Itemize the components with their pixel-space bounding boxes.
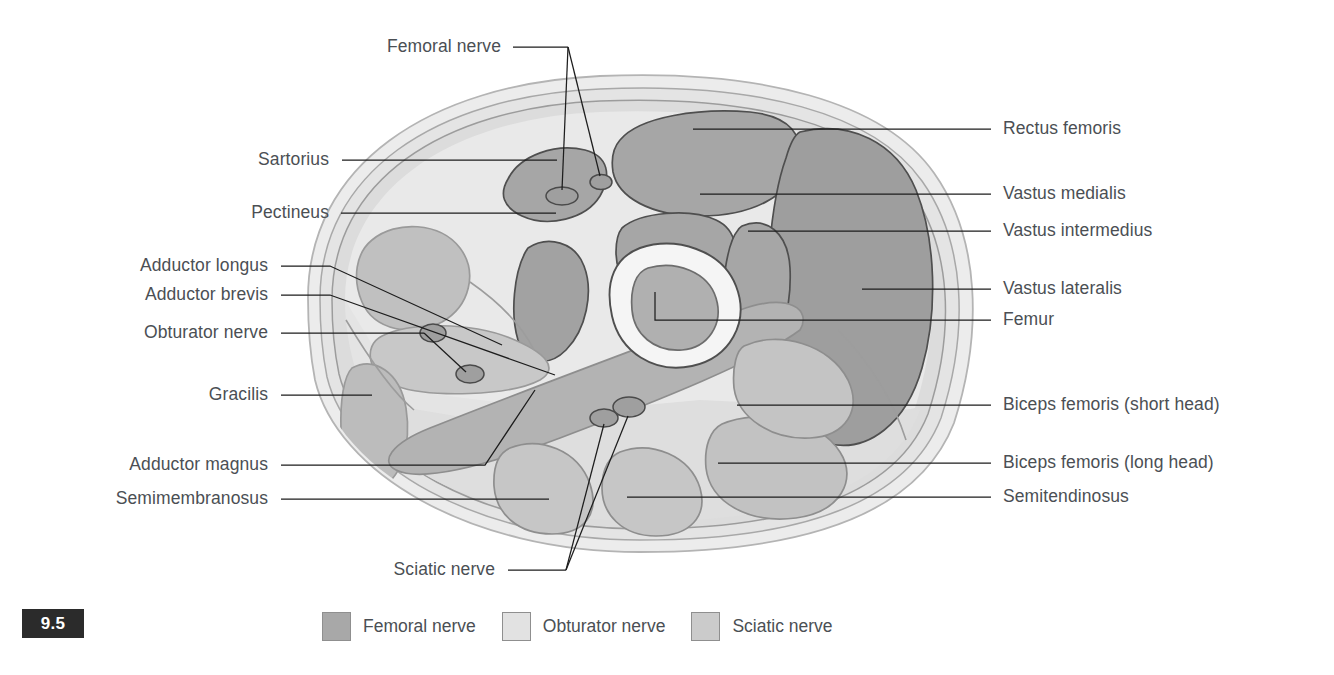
- label-adductor-brevis: Adductor brevis: [145, 284, 268, 304]
- legend-swatch-femoral-nerve: [322, 612, 351, 641]
- label-femur: Femur: [1003, 309, 1054, 329]
- label-biceps-femoris-short-head: Biceps femoris (short head): [1003, 394, 1220, 414]
- legend-swatch-sciatic-nerve: [691, 612, 720, 641]
- label-vastus-intermedius: Vastus intermedius: [1003, 220, 1152, 240]
- femur-bone: [610, 244, 741, 368]
- label-vastus-medialis: Vastus medialis: [1003, 183, 1126, 203]
- label-sartorius: Sartorius: [258, 149, 329, 169]
- label-gracilis: Gracilis: [209, 384, 268, 404]
- legend-item-femoral-nerve: Femoral nerve: [322, 612, 476, 641]
- legend-label-obturator-nerve: Obturator nerve: [543, 616, 666, 637]
- thigh-cross-section-diagram: Femoral nerve Sartorius Pectineus Adduct…: [0, 0, 1334, 675]
- label-semimembranosus: Semimembranosus: [116, 488, 268, 508]
- label-obturator-nerve: Obturator nerve: [144, 322, 268, 342]
- legend: Femoral nerve Obturator nerve Sciatic ne…: [322, 612, 859, 641]
- muscle-adductor-longus: [357, 227, 470, 331]
- legend-label-sciatic-nerve: Sciatic nerve: [732, 616, 832, 637]
- sciatic-nerve-dot-2: [613, 397, 645, 417]
- legend-swatch-obturator-nerve: [502, 612, 531, 641]
- figure-number-badge: 9.5: [22, 609, 84, 638]
- label-femoral-nerve: Femoral nerve: [387, 36, 501, 56]
- femoral-nerve-dot-2: [590, 175, 612, 190]
- obturator-nerve-dot-2: [456, 365, 484, 383]
- figure-page: Femoral nerve Sartorius Pectineus Adduct…: [0, 0, 1334, 675]
- label-semitendinosus: Semitendinosus: [1003, 486, 1129, 506]
- legend-item-sciatic-nerve: Sciatic nerve: [691, 612, 832, 641]
- legend-label-femoral-nerve: Femoral nerve: [363, 616, 476, 637]
- label-sciatic-nerve: Sciatic nerve: [394, 559, 495, 579]
- label-biceps-femoris-long-head: Biceps femoris (long head): [1003, 452, 1214, 472]
- label-text-right: Rectus femoris Vastus medialis Vastus in…: [1003, 118, 1220, 506]
- label-rectus-femoris: Rectus femoris: [1003, 118, 1121, 138]
- label-pectineus: Pectineus: [251, 202, 329, 222]
- label-adductor-magnus: Adductor magnus: [129, 454, 268, 474]
- label-adductor-longus: Adductor longus: [140, 255, 268, 275]
- label-vastus-lateralis: Vastus lateralis: [1003, 278, 1122, 298]
- legend-item-obturator-nerve: Obturator nerve: [502, 612, 666, 641]
